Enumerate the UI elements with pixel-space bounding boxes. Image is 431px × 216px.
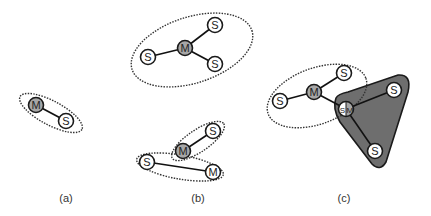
svg-text:S: S (211, 19, 218, 31)
slave-node: S (59, 114, 74, 129)
panel-c: S M S S M S S (c) (259, 52, 409, 204)
slave-node: S (206, 124, 221, 139)
slave-node: S (273, 94, 288, 109)
master-node-unshaded: M (206, 165, 221, 180)
slave-node: S (141, 50, 156, 65)
panel-label-c: (c) (338, 192, 351, 204)
svg-text:M: M (180, 42, 189, 54)
slave-node: S (208, 18, 223, 33)
master-node: M (29, 98, 44, 113)
svg-text:M: M (178, 145, 187, 157)
svg-text:M: M (31, 99, 40, 111)
master-node: M (307, 85, 322, 100)
slave-node: S (208, 57, 223, 72)
svg-text:S: S (371, 145, 378, 157)
svg-text:S: S (144, 51, 151, 63)
master-node: M (176, 144, 191, 159)
link (147, 162, 213, 172)
slave-node: S (337, 66, 352, 81)
piconet-diagram: M S (a) M S S S (0, 0, 431, 216)
slave-node: S (140, 155, 155, 170)
master-node: M (178, 41, 193, 56)
slave-master-bridge-node: S M (339, 102, 354, 117)
svg-text:S: S (143, 156, 150, 168)
slave-node: S (368, 144, 383, 159)
svg-text:M: M (309, 86, 318, 98)
svg-text:S: S (276, 95, 283, 107)
svg-text:S: S (211, 58, 218, 70)
svg-text:S: S (340, 67, 347, 79)
svg-text:S: S (62, 115, 69, 127)
slave-node: S (387, 83, 402, 98)
svg-text:M: M (346, 106, 353, 115)
svg-text:S: S (209, 125, 216, 137)
panel-label-b: (b) (191, 192, 204, 204)
svg-text:S: S (340, 106, 345, 115)
panel-label-a: (a) (59, 192, 72, 204)
svg-text:M: M (208, 166, 217, 178)
svg-text:S: S (390, 84, 397, 96)
panel-b: M S S S S M S (122, 0, 262, 204)
panel-a: M S (a) (14, 86, 87, 204)
